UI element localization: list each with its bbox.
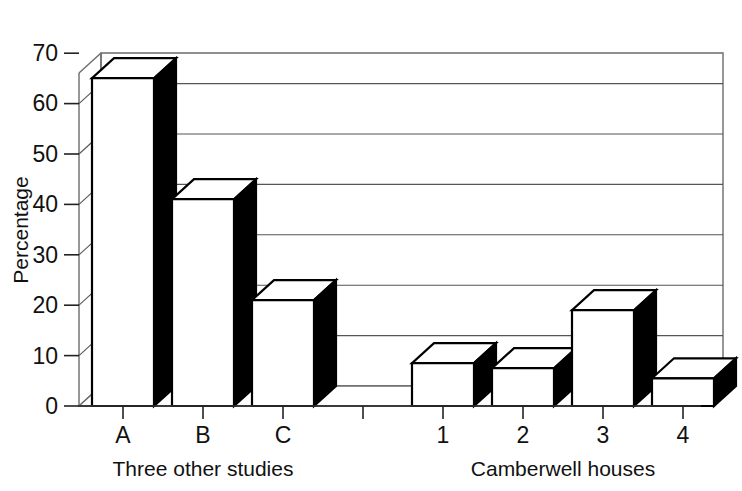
x-group-labels: Three other studies Camberwell houses — [113, 457, 656, 480]
y-tick-labels: 70 60 50 40 30 20 10 0 — [32, 40, 58, 419]
x-tick-label-1: 1 — [437, 422, 450, 448]
bar-B[interactable] — [172, 179, 256, 406]
bar-C-front — [252, 300, 314, 406]
y-axis-wall-top — [79, 53, 101, 73]
bar-1-front — [412, 363, 474, 406]
bar-A-front — [92, 78, 154, 406]
chart-figure: 70 60 50 40 30 20 10 0 Percentage — [0, 0, 742, 491]
group-label-three-other-studies: Three other studies — [113, 457, 294, 480]
y-tick-label-60: 60 — [32, 90, 58, 116]
bar-2[interactable] — [492, 348, 576, 406]
y-tick-label-70: 70 — [32, 40, 58, 66]
bar-1[interactable] — [412, 343, 496, 406]
y-tick-label-0: 0 — [45, 393, 58, 419]
bar-2-front — [492, 368, 554, 406]
x-tick-label-B: B — [195, 422, 210, 448]
group-label-camberwell-houses: Camberwell houses — [471, 457, 655, 480]
y-tick-label-50: 50 — [32, 141, 58, 167]
y-tick-label-20: 20 — [32, 292, 58, 318]
bar-B-front — [172, 199, 234, 406]
x-tick-label-2: 2 — [517, 422, 530, 448]
bar-3[interactable] — [572, 290, 656, 406]
x-tick-label-A: A — [115, 422, 131, 448]
x-tick-marks — [123, 406, 683, 419]
bar-C[interactable] — [252, 280, 336, 406]
y-tick-label-10: 10 — [32, 343, 58, 369]
x-tick-label-3: 3 — [597, 422, 610, 448]
bar-C-side — [314, 280, 336, 406]
y-tick-label-30: 30 — [32, 242, 58, 268]
y-tick-label-40: 40 — [32, 191, 58, 217]
bar-chart-svg: 70 60 50 40 30 20 10 0 Percentage — [0, 0, 742, 491]
bar-4[interactable] — [652, 358, 736, 406]
bar-4-front — [652, 378, 714, 406]
bar-A[interactable] — [92, 58, 176, 406]
x-tick-label-4: 4 — [677, 422, 690, 448]
bar-3-front — [572, 310, 634, 406]
x-category-labels: A B C 1 2 3 4 — [115, 422, 689, 448]
y-axis-title: Percentage — [9, 176, 32, 283]
x-tick-label-C: C — [275, 422, 292, 448]
